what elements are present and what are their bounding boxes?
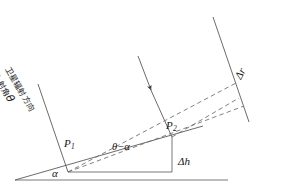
point-p2-letter: P xyxy=(166,119,173,131)
incident-ray-p2-upper xyxy=(138,56,151,90)
point-p2-label: P2 xyxy=(166,120,177,133)
alpha-angle-label: α xyxy=(52,168,58,179)
delta-h-label: Δh xyxy=(178,156,190,167)
theta-minus-alpha-label: θ−α xyxy=(112,142,130,153)
dashed-p2-range-connector xyxy=(172,98,239,137)
figure-container: 卫星辐射方向 入射角θ P1 P2 θ−α Δh Δr α xyxy=(0,0,282,195)
point-p1-label: P1 xyxy=(64,138,75,151)
dashed-slant-range-near xyxy=(68,83,236,172)
incident-ray-p1 xyxy=(38,84,68,172)
point-p2-subscript: 2 xyxy=(173,124,177,133)
dashed-slant-range-far xyxy=(68,106,244,172)
diagram-canvas xyxy=(0,0,282,195)
point-p1-letter: P xyxy=(64,137,71,149)
point-p1-subscript: 1 xyxy=(71,142,75,151)
